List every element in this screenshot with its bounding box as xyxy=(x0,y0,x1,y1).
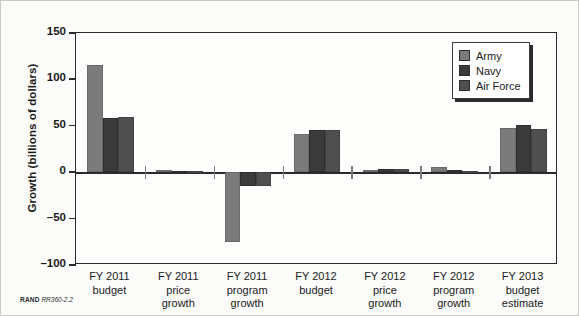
figure-container: Growth (billions of dollars) 150100500–5… xyxy=(0,0,579,316)
legend-item-label: Navy xyxy=(476,65,501,77)
x-label-line: FY 2012 xyxy=(419,270,488,284)
bar-army[interactable] xyxy=(225,172,241,242)
bar-group xyxy=(156,33,203,263)
x-label-line: program xyxy=(213,284,282,298)
y-tick-mark xyxy=(69,78,76,80)
x-axis-category-label: FY 2011programgrowth xyxy=(213,270,282,311)
bar-navy[interactable] xyxy=(103,118,119,172)
x-label-line: FY 2013 xyxy=(488,270,557,284)
y-tick-mark xyxy=(69,264,76,266)
bar-group xyxy=(363,33,410,263)
x-axis-category-label: FY 2013budgetestimate xyxy=(488,270,557,311)
bar-group xyxy=(87,33,134,263)
x-axis-category-label: FY 2012pricegrowth xyxy=(350,270,419,311)
x-axis-category-label: FY 2012programgrowth xyxy=(419,270,488,311)
bar-army[interactable] xyxy=(500,128,516,173)
x-category-separator xyxy=(283,166,284,179)
x-label-line: program xyxy=(419,284,488,298)
bar-air-force[interactable] xyxy=(187,171,203,173)
bar-navy[interactable] xyxy=(240,172,256,186)
x-label-line: FY 2011 xyxy=(144,270,213,284)
bar-air-force[interactable] xyxy=(462,171,478,173)
bar-air-force[interactable] xyxy=(531,129,547,173)
bar-group xyxy=(225,33,272,263)
bar-air-force[interactable] xyxy=(325,130,341,173)
legend-item[interactable]: Air Force xyxy=(459,78,521,93)
bar-army[interactable] xyxy=(156,170,172,172)
bar-navy[interactable] xyxy=(516,125,532,172)
legend-swatch-army xyxy=(459,50,470,61)
x-category-separator xyxy=(214,166,215,179)
x-label-line: price xyxy=(350,284,419,298)
x-label-line: FY 2012 xyxy=(282,270,351,284)
legend-item[interactable]: Army xyxy=(459,48,521,63)
legend-item-label: Army xyxy=(476,50,502,62)
legend-item-label: Air Force xyxy=(476,80,521,92)
legend-swatch-navy xyxy=(459,65,470,76)
legend-item[interactable]: Navy xyxy=(459,63,521,78)
x-label-line: budget xyxy=(282,284,351,298)
legend-swatch-air-force xyxy=(459,80,470,91)
x-label-line: growth xyxy=(213,297,282,311)
x-label-line: budget xyxy=(488,284,557,298)
bar-army[interactable] xyxy=(431,167,447,173)
x-label-line: growth xyxy=(350,297,419,311)
bar-air-force[interactable] xyxy=(394,169,410,172)
x-axis-category-label: FY 2012budget xyxy=(282,270,351,297)
y-tick-label: 150 xyxy=(30,25,66,37)
y-tick-label: –100 xyxy=(30,257,66,269)
figure-source-note: RAND RR360-2.2 xyxy=(20,296,73,303)
bar-group xyxy=(294,33,341,263)
bar-army[interactable] xyxy=(363,170,379,172)
bar-navy[interactable] xyxy=(172,171,188,173)
bar-navy[interactable] xyxy=(378,169,394,172)
x-label-line: growth xyxy=(419,297,488,311)
bar-army[interactable] xyxy=(294,134,310,172)
x-category-separator xyxy=(420,166,421,179)
y-tick-label: 100 xyxy=(30,71,66,83)
y-tick-mark xyxy=(69,125,76,127)
x-label-line: FY 2012 xyxy=(350,270,419,284)
x-label-line: price xyxy=(144,284,213,298)
x-category-separator xyxy=(351,166,352,179)
y-tick-label: –50 xyxy=(30,211,66,223)
bar-navy[interactable] xyxy=(309,130,325,173)
bar-navy[interactable] xyxy=(447,170,463,172)
bar-air-force[interactable] xyxy=(118,117,134,172)
bar-army[interactable] xyxy=(87,65,103,172)
x-label-line: FY 2011 xyxy=(213,270,282,284)
source-org: RAND xyxy=(20,296,40,303)
x-category-separator xyxy=(489,166,490,179)
x-category-separator xyxy=(145,166,146,179)
y-tick-label: 0 xyxy=(30,164,66,176)
y-tick-label: 50 xyxy=(30,118,66,130)
legend: ArmyNavyAir Force xyxy=(452,42,530,99)
y-tick-mark xyxy=(69,218,76,220)
x-label-line: FY 2011 xyxy=(75,270,144,284)
bar-air-force[interactable] xyxy=(256,172,272,186)
x-label-line: estimate xyxy=(488,297,557,311)
source-code: RR360-2.2 xyxy=(41,296,72,303)
y-tick-mark xyxy=(69,171,76,173)
y-tick-mark xyxy=(69,32,76,34)
x-axis-category-label: FY 2011budget xyxy=(75,270,144,297)
x-label-line: growth xyxy=(144,297,213,311)
x-label-line: budget xyxy=(75,284,144,298)
x-axis-category-label: FY 2011pricegrowth xyxy=(144,270,213,311)
